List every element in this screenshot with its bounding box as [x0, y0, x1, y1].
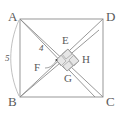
- measure-label-five: 5: [5, 54, 10, 63]
- vertex-label-e: E: [62, 35, 69, 46]
- inner-square-fehg: [56, 49, 79, 71]
- measure-label-four: 4: [39, 44, 44, 53]
- vertex-label-f: F: [34, 62, 40, 73]
- vertex-label-d: D: [106, 10, 115, 23]
- geometry-figure: A D B C E H G F 4 5: [0, 0, 125, 114]
- vertex-label-g: G: [64, 73, 72, 84]
- vertex-label-a: A: [8, 10, 17, 23]
- vertex-label-h: H: [82, 54, 90, 65]
- measure-arc-ab: [11, 20, 19, 96]
- vertex-label-c: C: [106, 95, 115, 108]
- vertex-label-b: B: [8, 95, 17, 108]
- vertex-dot-f: [55, 59, 57, 61]
